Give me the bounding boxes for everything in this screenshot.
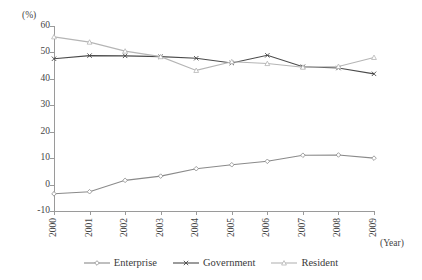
x-axis-tick [161, 211, 162, 215]
data-point-diamond [194, 166, 199, 171]
x-axis-tick-label: 2005 [227, 218, 237, 237]
x-axis-tick-label: 2008 [333, 218, 343, 237]
x-axis-tick-label: 2001 [85, 218, 95, 237]
legend-item-resident[interactable]: Resident [271, 258, 338, 269]
data-point-diamond [301, 153, 306, 158]
data-point-triangle [372, 55, 377, 59]
legend-label: Enterprise [114, 258, 157, 269]
series-line [54, 55, 374, 73]
x-axis-tick [374, 211, 375, 215]
legend-item-enterprise[interactable]: Enterprise [84, 258, 157, 269]
data-point-diamond [265, 159, 270, 164]
data-point-diamond [123, 178, 128, 183]
data-point-diamond [229, 162, 234, 167]
x-axis-tick [267, 211, 268, 215]
y-axis-tick-label: 60 [26, 21, 50, 31]
line-chart: (%) -100102030405060 2000200120022003200… [0, 0, 422, 280]
x-axis-tick [90, 211, 91, 215]
series-resident [52, 34, 377, 72]
chart-legend: EnterpriseGovernmentResident [0, 258, 422, 269]
data-point-diamond [158, 174, 163, 179]
x-axis-tick [303, 211, 304, 215]
legend-marker-icon [271, 258, 297, 268]
series-layer [54, 26, 374, 211]
y-axis-tick-label: 10 [26, 153, 50, 163]
series-line [54, 37, 374, 71]
legend-marker-icon [84, 258, 110, 268]
data-point-diamond [94, 261, 99, 266]
legend-label: Government [203, 258, 256, 269]
data-point-diamond [52, 192, 57, 197]
series-government [52, 53, 376, 76]
x-axis-tick [338, 211, 339, 215]
x-axis-tick-label: 2009 [369, 218, 379, 237]
x-axis-unit-label: (Year) [380, 238, 404, 248]
x-axis-tick [196, 211, 197, 215]
x-axis-tick [54, 211, 55, 215]
y-axis-tick-label: 20 [26, 127, 50, 137]
x-axis-tick [125, 211, 126, 215]
data-point-diamond [336, 153, 341, 158]
plot-area [54, 26, 374, 211]
x-axis-tick-label: 2003 [156, 218, 166, 237]
series-line [54, 155, 374, 194]
y-axis-tick-label: 50 [26, 47, 50, 57]
legend-label: Resident [301, 258, 338, 269]
x-axis-line [54, 211, 374, 212]
y-axis-tick-label: 0 [26, 180, 50, 190]
x-axis-tick-label: 2007 [298, 218, 308, 237]
y-axis-tick-label: 40 [26, 74, 50, 84]
series-enterprise [52, 153, 377, 196]
y-axis-tick-label: -10 [26, 206, 50, 216]
data-point-diamond [87, 189, 92, 194]
data-point-diamond [372, 156, 377, 161]
x-axis-tick-label: 2004 [191, 218, 201, 237]
y-axis-unit-label: (%) [22, 10, 36, 20]
x-axis-tick-label: 2006 [262, 218, 272, 237]
x-axis-tick-label: 2000 [49, 218, 59, 237]
x-axis-tick-label: 2002 [120, 218, 130, 237]
x-axis-tick [232, 211, 233, 215]
legend-marker-icon [173, 258, 199, 268]
y-axis-tick-label: 30 [26, 100, 50, 110]
legend-item-government[interactable]: Government [173, 258, 256, 269]
